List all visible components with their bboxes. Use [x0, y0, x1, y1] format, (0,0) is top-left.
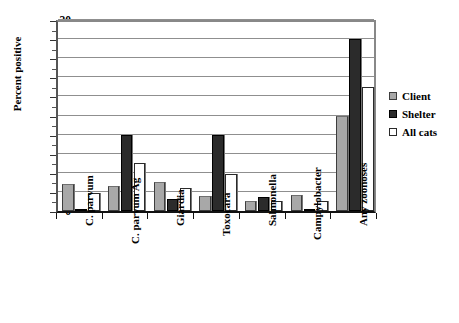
- x-category-label: C. parvum Ag: [130, 178, 141, 244]
- bar-client: [245, 201, 257, 211]
- x-tick-mark: [239, 213, 240, 219]
- bar-group: [154, 22, 192, 211]
- x-tick-mark: [147, 213, 148, 219]
- bar-client: [62, 184, 74, 211]
- bar-client: [291, 195, 303, 211]
- legend-label: All cats: [402, 126, 437, 138]
- x-category-label: Toxocara: [221, 192, 232, 236]
- x-tick-mark: [285, 213, 286, 219]
- x-category-label: Any zoonoses: [358, 163, 369, 226]
- bar-client: [199, 196, 211, 211]
- x-tick-mark: [193, 213, 194, 219]
- x-category-label: Giardia: [175, 189, 186, 226]
- x-category-label: C. parvum: [84, 175, 95, 226]
- plot-area: [56, 20, 376, 213]
- bar-client: [108, 186, 120, 211]
- x-tick-mark: [330, 213, 331, 219]
- legend-swatch-icon: [389, 92, 397, 100]
- legend-label: Client: [402, 90, 431, 102]
- legend-item: Shelter: [389, 106, 459, 122]
- bar-group: [199, 22, 237, 211]
- bar-client: [154, 182, 166, 211]
- legend-swatch-icon: [389, 128, 397, 136]
- legend-item: Client: [389, 88, 459, 104]
- y-axis-title: Percent positive: [11, 9, 23, 139]
- chart-legend: ClientShelterAll cats: [389, 88, 459, 142]
- bar-chart: Percent positive 02468101214161820 C. pa…: [0, 0, 459, 323]
- legend-item: All cats: [389, 124, 459, 140]
- legend-label: Shelter: [402, 108, 436, 120]
- gridline: [58, 19, 374, 20]
- x-category-label: Campylobacter: [312, 167, 323, 240]
- x-tick-mark: [56, 213, 57, 219]
- x-tick-mark: [102, 213, 103, 219]
- bar-client: [336, 116, 348, 212]
- legend-swatch-icon: [389, 110, 397, 118]
- x-tick-mark: [376, 213, 377, 219]
- x-category-label: Salmonella: [267, 174, 278, 226]
